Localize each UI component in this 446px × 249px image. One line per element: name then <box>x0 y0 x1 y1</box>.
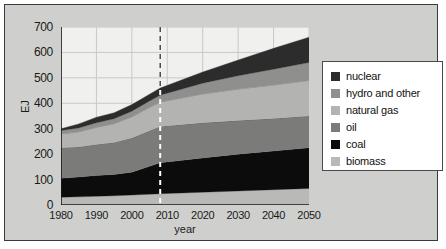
legend-swatch-icon <box>331 123 340 132</box>
legend-swatch-icon <box>331 89 340 98</box>
legend-item-biomass[interactable]: biomass <box>331 153 442 170</box>
figure-frame: EJ 7006005004003002001000 19801990200020… <box>4 4 438 241</box>
legend-swatch-icon <box>331 157 340 166</box>
chart-svg <box>61 27 309 205</box>
stacked-area-chart <box>61 27 309 205</box>
legend-item-oil[interactable]: oil <box>331 119 442 136</box>
y-axis-tick: 500 <box>15 72 53 84</box>
y-axis-tick: 100 <box>15 174 53 186</box>
legend-item-label: hydro and other <box>346 88 420 99</box>
legend-swatch-icon <box>331 72 340 81</box>
x-axis-title: year <box>61 223 309 235</box>
y-axis-tick: 600 <box>15 46 53 58</box>
legend-swatch-icon <box>331 140 340 149</box>
y-axis-tick: 200 <box>15 148 53 160</box>
legend-item-label: biomass <box>346 156 386 167</box>
legend-item-coal[interactable]: coal <box>331 136 442 153</box>
chart-legend: nuclearhydro and othernatural gasoilcoal… <box>322 61 443 171</box>
legend-item-label: oil <box>346 122 356 133</box>
legend-item-label: coal <box>346 139 365 150</box>
legend-item-nuclear[interactable]: nuclear <box>331 68 442 85</box>
y-axis-tick: 700 <box>15 21 53 33</box>
legend-item-label: natural gas <box>346 105 398 116</box>
legend-item-natural-gas[interactable]: natural gas <box>331 102 442 119</box>
legend-item-label: nuclear <box>346 71 381 82</box>
legend-item-hydro-and-other[interactable]: hydro and other <box>331 85 442 102</box>
legend-swatch-icon <box>331 106 340 115</box>
plot-area <box>61 27 309 205</box>
y-axis-tick: 300 <box>15 123 53 135</box>
x-axis-tick: 2050 <box>287 210 331 221</box>
y-axis-tick: 400 <box>15 97 53 109</box>
